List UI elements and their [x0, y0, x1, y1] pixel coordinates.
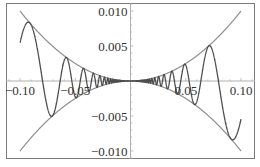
plot-container: −0.10−0.050.050.100.0100.005−0.005−0.010	[0, 0, 260, 167]
x-tick-label: −0.05	[60, 83, 90, 98]
x-tick-label: 0.10	[230, 83, 253, 98]
y-tick-label: 0.005	[98, 39, 127, 54]
x-tick-label: 0.05	[174, 83, 197, 98]
y-tick-label: −0.010	[91, 144, 128, 159]
function-plot: −0.10−0.050.050.100.0100.005−0.005−0.010	[0, 0, 260, 167]
x-tick-label: −0.10	[5, 83, 35, 98]
y-tick-label: −0.005	[91, 109, 128, 124]
y-tick-label: 0.010	[98, 4, 127, 19]
